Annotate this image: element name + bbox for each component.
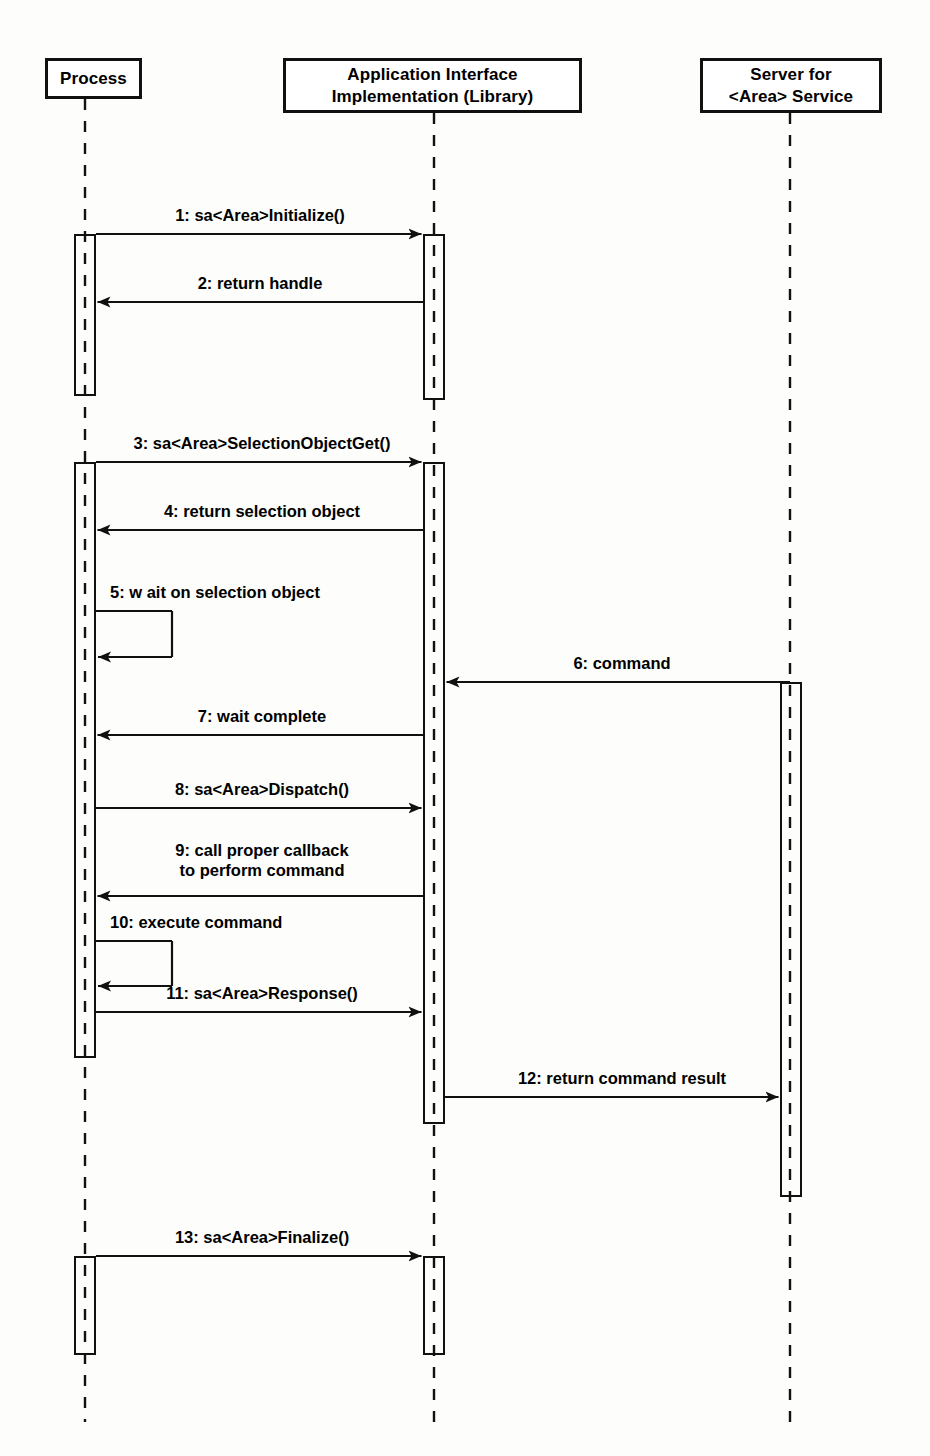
message-label-8: 8: sa<Area>Dispatch() <box>175 779 349 799</box>
activation-bar-process[interactable] <box>74 234 96 396</box>
message-label-10: 10: execute command <box>110 912 282 932</box>
message-self-5 <box>96 611 172 657</box>
sequence-diagram-canvas: ProcessApplication Interface Implementat… <box>0 0 930 1456</box>
activation-bar-process[interactable] <box>74 462 96 1058</box>
message-label-13: 13: sa<Area>Finalize() <box>175 1227 349 1247</box>
lifeline-header-label: Application Interface Implementation (Li… <box>326 64 540 108</box>
message-label-1: 1: sa<Area>Initialize() <box>175 205 345 225</box>
message-label-3: 3: sa<Area>SelectionObjectGet() <box>134 433 391 453</box>
activation-bar-process[interactable] <box>74 1256 96 1355</box>
message-label-12: 12: return command result <box>518 1068 726 1088</box>
lifeline-header-label: Server for <Area> Service <box>723 64 859 108</box>
activation-bar-library[interactable] <box>423 462 445 1124</box>
message-label-11: 11: sa<Area>Response() <box>166 983 358 1003</box>
lifeline-header-label: Process <box>54 68 133 90</box>
lifeline-header-process[interactable]: Process <box>45 58 142 99</box>
lifeline-header-server[interactable]: Server for <Area> Service <box>700 58 882 113</box>
activation-bar-library[interactable] <box>423 234 445 400</box>
activation-bar-server[interactable] <box>780 682 802 1197</box>
message-label-6: 6: command <box>573 653 670 673</box>
lifeline-header-library[interactable]: Application Interface Implementation (Li… <box>283 58 582 113</box>
message-label-9: 9: call proper callback to perform comma… <box>175 840 348 880</box>
message-label-5: 5: w ait on selection object <box>110 582 320 602</box>
message-label-4: 4: return selection object <box>164 501 360 521</box>
message-self-10 <box>96 941 172 986</box>
message-label-7: 7: wait complete <box>198 706 326 726</box>
message-label-2: 2: return handle <box>198 273 323 293</box>
activation-bar-library[interactable] <box>423 1256 445 1355</box>
